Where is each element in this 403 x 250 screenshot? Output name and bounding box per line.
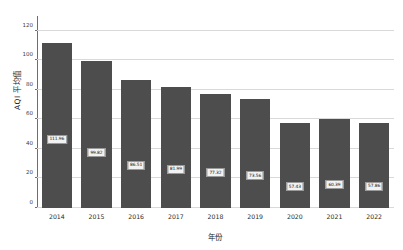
bar-slot[interactable]: 81.992017 (156, 16, 196, 208)
bar[interactable]: 57.86 (359, 123, 389, 208)
bar[interactable]: 57.43 (280, 123, 310, 208)
y-tick-label: 100 (23, 51, 34, 57)
y-tick-label: 20 (26, 169, 33, 175)
bar-value-label: 99.82 (88, 148, 105, 157)
bar-value-label: 111.96 (47, 135, 67, 144)
plot-area: 020406080100120 111.96201499.82201586.51… (37, 16, 394, 208)
bar[interactable]: 73.56 (240, 99, 270, 208)
bar[interactable]: 86.51 (121, 80, 151, 208)
bar-chart-figure: AQI 平均值 年份 020406080100120 111.96201499.… (0, 0, 403, 250)
bar-value-label: 77.32 (207, 168, 224, 177)
bar[interactable]: 81.99 (161, 87, 191, 208)
bar-value-label: 73.56 (247, 171, 264, 180)
x-tick-label: 2022 (366, 213, 382, 220)
bar-value-label: 86.51 (128, 161, 145, 170)
bar-value-label: 57.86 (366, 182, 383, 191)
bar[interactable]: 60.39 (319, 119, 349, 208)
bar[interactable]: 99.82 (81, 61, 111, 208)
bar-value-label: 81.99 (167, 165, 184, 174)
y-axis-title: AQI 平均值 (11, 0, 25, 215)
bar-slot[interactable]: 77.322018 (196, 16, 236, 208)
x-tick-label: 2015 (89, 213, 105, 220)
bar[interactable]: 111.96 (42, 43, 72, 208)
y-tick-label: 60 (26, 110, 33, 116)
bar-value-label: 60.39 (326, 180, 343, 189)
x-tick-label: 2021 (327, 213, 343, 220)
x-tick-label: 2014 (49, 213, 65, 220)
bar-series: 111.96201499.82201586.51201681.99201777.… (37, 16, 394, 208)
bar-slot[interactable]: 86.512016 (116, 16, 156, 208)
bar-slot[interactable]: 57.432020 (275, 16, 315, 208)
bar-value-label: 57.43 (286, 182, 303, 191)
y-tick-label: 120 (23, 22, 34, 28)
bar-slot[interactable]: 73.562019 (235, 16, 275, 208)
bar-slot[interactable]: 99.822015 (77, 16, 117, 208)
bar-slot[interactable]: 111.962014 (37, 16, 77, 208)
bar[interactable]: 77.32 (200, 94, 230, 208)
bar-slot[interactable]: 60.392021 (315, 16, 355, 208)
bar-slot[interactable]: 57.862022 (354, 16, 394, 208)
x-tick-label: 2016 (128, 213, 144, 220)
x-tick-label: 2019 (247, 213, 263, 220)
x-tick-label: 2017 (168, 213, 184, 220)
x-tick-label: 2020 (287, 213, 303, 220)
x-axis-title: 年份 (35, 231, 395, 242)
y-tick-label: 40 (26, 140, 33, 146)
y-tick-label: 80 (26, 81, 33, 87)
x-tick-label: 2018 (208, 213, 224, 220)
y-tick-label: 0 (30, 199, 34, 205)
